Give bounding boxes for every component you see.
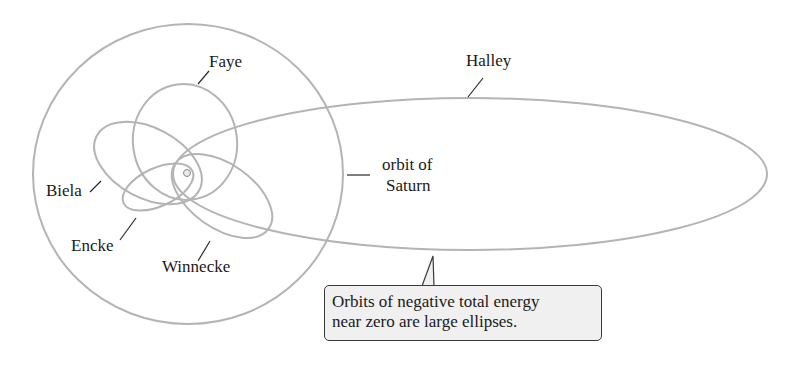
callout-line1: Orbits of negative total energy <box>332 292 601 312</box>
encke-label: Encke <box>71 236 113 255</box>
faye-orbit <box>125 77 244 206</box>
halley-label: Halley <box>466 51 511 70</box>
halley-orbit <box>173 98 767 250</box>
winnecke-label: Winnecke <box>162 257 230 276</box>
biela-leader <box>90 181 101 192</box>
halley-leader <box>468 78 483 97</box>
sun-icon <box>184 170 191 177</box>
faye-label: Faye <box>209 52 242 71</box>
saturn-label-line2: Saturn <box>386 176 430 195</box>
faye-leader <box>198 71 209 84</box>
encke-leader <box>120 218 136 240</box>
encke-orbit <box>116 154 201 221</box>
biela-label: Biela <box>46 181 82 200</box>
saturn-label-line1: orbit of <box>382 155 433 174</box>
callout-line2: near zero are large ellipses. <box>332 312 601 332</box>
winnecke-orbit <box>157 137 287 255</box>
callout-box: Orbits of negative total energy near zer… <box>324 285 602 341</box>
